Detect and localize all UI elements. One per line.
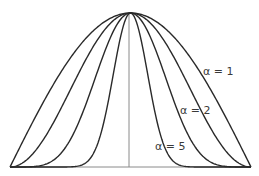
curve-alpha-1 xyxy=(10,13,251,167)
chart: α = 1 α = 2 α = 5 xyxy=(0,0,259,176)
curve-alpha-5 xyxy=(10,13,251,167)
curves xyxy=(10,13,251,167)
label-alpha-1: α = 1 xyxy=(203,65,233,78)
label-alpha-2: α = 2 xyxy=(180,104,210,117)
curve-alpha-20 xyxy=(10,13,251,167)
curve-alpha-2 xyxy=(10,13,251,167)
label-alpha-5: α = 5 xyxy=(155,140,185,153)
